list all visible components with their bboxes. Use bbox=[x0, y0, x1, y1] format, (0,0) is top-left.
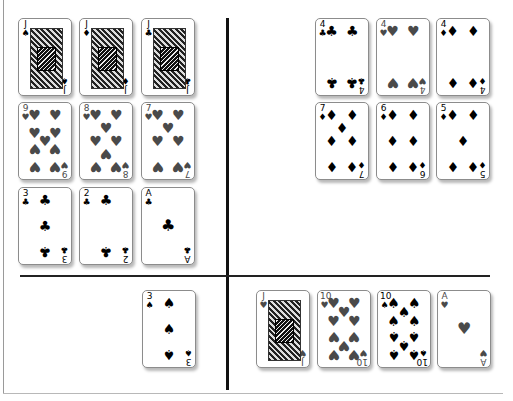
card-index-bottom: 3♣ bbox=[60, 245, 69, 263]
rank-label: 8 bbox=[123, 169, 129, 179]
diamonds-pip-icon: ♦ bbox=[325, 134, 339, 148]
hearts-pip-icon: ♥ bbox=[28, 108, 42, 122]
rank-label: 2 bbox=[123, 254, 129, 264]
clubs-pip-icon: ♣ bbox=[345, 76, 359, 90]
clubs-pip-icon: ♣ bbox=[325, 24, 339, 38]
card-j-of-clubs[interactable]: J♣J♣ bbox=[141, 18, 195, 96]
frame-left-border bbox=[3, 0, 4, 393]
hearts-pip-icon: ♥ bbox=[347, 348, 361, 362]
card-index-top: 3♠ bbox=[145, 292, 154, 310]
spades-pip-icon: ♠ bbox=[407, 314, 421, 328]
spades-pip-icon: ♠ bbox=[162, 348, 176, 362]
card-9-of-hearts[interactable]: 9♥9♥♥♥♥♥♥♥♥♥♥ bbox=[18, 102, 72, 180]
hearts-pip-icon: ♥ bbox=[386, 24, 400, 38]
hearts-icon: ♥ bbox=[479, 348, 488, 357]
clubs-pip-icon: ♣ bbox=[99, 193, 113, 207]
hearts-pip-icon: ♥ bbox=[406, 76, 420, 90]
card-4-of-diamonds[interactable]: 4♦4♦♦♦♦♦ bbox=[436, 18, 490, 96]
card-5-of-diamonds[interactable]: 5♦5♦♦♦♦♦♦ bbox=[436, 102, 490, 180]
card-7-of-hearts[interactable]: 7♥7♥♥♥♥♥♥♥♥ bbox=[141, 102, 195, 180]
spades-pip-icon: ♠ bbox=[387, 348, 401, 362]
card-7-of-diamonds[interactable]: 7♦7♦♦♦♦♦♦♦♦ bbox=[315, 102, 369, 180]
hearts-pip-icon: ♥ bbox=[406, 24, 420, 38]
card-index-top: 2♣ bbox=[82, 189, 91, 207]
horizontal-divider bbox=[20, 275, 490, 277]
card-3-of-spades[interactable]: 3♠3♠♠♠♠ bbox=[142, 290, 196, 368]
clubs-icon: ♣ bbox=[82, 198, 91, 207]
card-index-bottom: A♣ bbox=[183, 245, 192, 263]
hearts-pip-icon: ♥ bbox=[327, 314, 341, 328]
clubs-pip-icon: ♣ bbox=[38, 219, 52, 233]
hearts-pip-icon: ♥ bbox=[89, 160, 103, 174]
card-j-of-diamonds[interactable]: J♦J♦ bbox=[79, 18, 133, 96]
card-index-top: A♥ bbox=[440, 292, 449, 310]
hearts-pip-icon: ♥ bbox=[347, 314, 361, 328]
diamonds-pip-icon: ♦ bbox=[325, 160, 339, 174]
rank-label: J bbox=[301, 357, 304, 367]
diamonds-pip-icon: ♦ bbox=[446, 76, 460, 90]
diamonds-pip-icon: ♦ bbox=[446, 160, 460, 174]
clubs-pip-icon: ♣ bbox=[38, 245, 52, 259]
clubs-pip-icon: ♣ bbox=[345, 24, 359, 38]
card-4-of-hearts[interactable]: 4♥4♥♥♥♥♥ bbox=[376, 18, 430, 96]
card-4-of-clubs[interactable]: 4♣4♣♣♣♣♣ bbox=[315, 18, 369, 96]
rank-label: 5 bbox=[480, 169, 486, 179]
vertical-divider bbox=[226, 18, 229, 390]
rank-label: 7 bbox=[359, 169, 365, 179]
card-10-of-spades[interactable]: 10♠10♠♠♠♠♠♠♠♠♠♠♠ bbox=[377, 290, 431, 368]
hearts-pip-icon: ♥ bbox=[386, 76, 400, 90]
clubs-pip-icon: ♣ bbox=[161, 219, 175, 233]
diamonds-pip-icon: ♦ bbox=[406, 134, 420, 148]
rank-label: 3 bbox=[62, 254, 68, 264]
hearts-pip-icon: ♥ bbox=[109, 160, 123, 174]
card-8-of-hearts[interactable]: 8♥8♥♥♥♥♥♥♥♥♥ bbox=[79, 102, 133, 180]
diamonds-icon: ♦ bbox=[82, 29, 91, 38]
card-3-of-clubs[interactable]: 3♣3♣♣♣♣ bbox=[18, 187, 72, 265]
card-index-top: 3♣ bbox=[21, 189, 30, 207]
card-6-of-diamonds[interactable]: 6♦6♦♦♦♦♦♦♦ bbox=[376, 102, 430, 180]
clubs-icon: ♣ bbox=[21, 198, 30, 207]
rank-label: 6 bbox=[420, 169, 426, 179]
clubs-icon: ♣ bbox=[121, 245, 130, 254]
spades-pip-icon: ♠ bbox=[162, 322, 176, 336]
diamonds-pip-icon: ♦ bbox=[386, 160, 400, 174]
hearts-pip-icon: ♥ bbox=[48, 108, 62, 122]
clubs-pip-icon: ♣ bbox=[325, 76, 339, 90]
card-a-of-clubs[interactable]: A♣A♣♣ bbox=[141, 187, 195, 265]
hearts-icon: ♥ bbox=[440, 301, 449, 310]
diamonds-pip-icon: ♦ bbox=[466, 24, 480, 38]
card-index-top: A♣ bbox=[144, 189, 153, 207]
diamonds-pip-icon: ♦ bbox=[466, 160, 480, 174]
diamonds-pip-icon: ♦ bbox=[466, 108, 480, 122]
diamonds-pip-icon: ♦ bbox=[386, 108, 400, 122]
rank-label: 4 bbox=[480, 85, 486, 95]
diamonds-pip-icon: ♦ bbox=[386, 134, 400, 148]
jack-face-artwork bbox=[153, 28, 186, 89]
card-10-of-hearts[interactable]: 10♥10♥♥♥♥♥♥♥♥♥♥♥ bbox=[317, 290, 371, 368]
card-index-bottom: 3♠ bbox=[184, 348, 193, 366]
card-a-of-hearts[interactable]: A♥A♥♥ bbox=[437, 290, 491, 368]
card-index-bottom: A♥ bbox=[479, 348, 488, 366]
hearts-pip-icon: ♥ bbox=[48, 142, 62, 156]
clubs-icon: ♣ bbox=[60, 245, 69, 254]
card-index-top: J♠ bbox=[21, 20, 30, 38]
card-2-of-clubs[interactable]: 2♣2♣♣♣ bbox=[79, 187, 133, 265]
spades-pip-icon: ♠ bbox=[387, 314, 401, 328]
diamonds-pip-icon: ♦ bbox=[345, 134, 359, 148]
spades-icon: ♠ bbox=[184, 348, 193, 357]
hearts-pip-icon: ♥ bbox=[48, 160, 62, 174]
hearts-pip-icon: ♥ bbox=[151, 160, 165, 174]
card-index-top: J♦ bbox=[82, 20, 91, 38]
clubs-icon: ♣ bbox=[144, 29, 153, 38]
card-j-of-spades[interactable]: J♠J♠ bbox=[18, 18, 72, 96]
rank-label: J bbox=[63, 85, 66, 95]
jack-face-artwork bbox=[268, 300, 301, 361]
clubs-pip-icon: ♣ bbox=[99, 245, 113, 259]
rank-label: 3 bbox=[186, 357, 192, 367]
spades-icon: ♠ bbox=[21, 29, 30, 38]
jack-face-artwork bbox=[30, 28, 63, 89]
jack-face-artwork bbox=[91, 28, 124, 89]
card-j-of-hearts[interactable]: J♥J♥ bbox=[256, 290, 310, 368]
diamonds-pip-icon: ♦ bbox=[345, 160, 359, 174]
diamonds-pip-icon: ♦ bbox=[446, 108, 460, 122]
